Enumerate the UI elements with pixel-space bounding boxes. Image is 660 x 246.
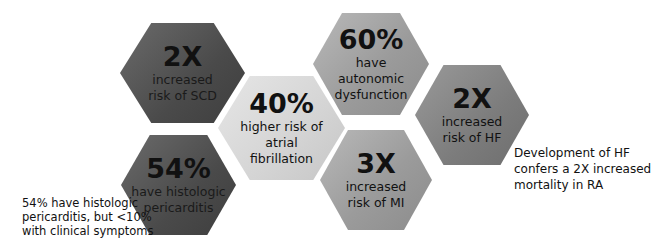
hex-afib-line2: atrial (265, 135, 297, 151)
hex-mi-line2: risk of MI (348, 195, 405, 211)
note-hf: Development of HF confers a 2X increased… (514, 145, 651, 193)
hex-scd: 2X increased risk of SCD (120, 23, 245, 123)
hex-autonomic-value: 60% (339, 25, 404, 55)
hex-autonomic-line2: autonomic (338, 71, 404, 87)
hex-hf-value: 2X (452, 84, 492, 114)
hex-hf: 2X increased risk of HF (415, 65, 529, 165)
note-pericarditis-line3: with clinical symptoms (22, 224, 154, 238)
hex-pericarditis-line2: pericarditis (144, 200, 214, 216)
hex-autonomic: 60% have autonomic dysfunction (313, 13, 429, 115)
hex-scd-line2: risk of SCD (148, 88, 217, 104)
hex-mi: 3X increased risk of MI (320, 130, 432, 230)
hex-hf-line2: risk of HF (443, 130, 502, 146)
hex-afib-value: 40% (249, 89, 314, 119)
hex-mi-line1: increased (346, 179, 407, 195)
hex-pericarditis-value: 54% (146, 154, 211, 184)
hex-autonomic-line3: dysfunction (335, 87, 408, 103)
hex-afib: 40% higher risk of atrial fibrillation (218, 76, 345, 180)
hex-mi-value: 3X (356, 149, 396, 179)
hex-scd-line1: increased (152, 72, 213, 88)
hex-scd-value: 2X (163, 42, 203, 72)
note-hf-line1: Development of HF (514, 145, 651, 161)
hex-hf-line1: increased (442, 114, 503, 130)
note-pericarditis-line2: pericarditis, but <10% (22, 210, 154, 224)
hex-afib-line3: fibrillation (250, 151, 313, 167)
note-hf-line2: confers a 2X increased (514, 161, 651, 177)
note-hf-line3: mortality in RA (514, 177, 651, 193)
note-pericarditis: 54% have histologic pericarditis, but <1… (22, 196, 154, 238)
note-pericarditis-line1: 54% have histologic (22, 196, 154, 210)
hex-autonomic-line1: have (356, 55, 387, 71)
hex-afib-line1: higher risk of (240, 119, 322, 135)
